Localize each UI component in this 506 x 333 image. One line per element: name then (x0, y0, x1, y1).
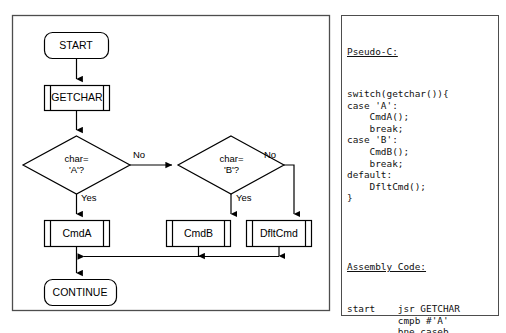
continue-terminal-shape (45, 280, 117, 306)
code-line: } (347, 192, 498, 204)
edge-label-no-b: No (264, 149, 276, 160)
code-line: DfltCmd(); (347, 181, 498, 193)
getchar-subroutine-shape (45, 86, 110, 111)
pseudo-c-heading: Pseudo-C: (347, 46, 498, 58)
code-line: case 'A': (347, 100, 498, 112)
code-line: default: (347, 169, 498, 181)
edge-no-b-to-dfltcmd (284, 165, 294, 214)
assembly-heading: Assembly Code: (347, 261, 498, 273)
code-line: start jsr GETCHAR (347, 303, 498, 315)
edge-label-yes-b: Yes (236, 192, 252, 203)
decision-b-line2: 'B'? (224, 164, 239, 175)
code-line: cmpb #'A' (347, 315, 498, 327)
code-line: break; (347, 123, 498, 135)
code-line: break; (347, 158, 498, 170)
code-panel: Pseudo-C: switch(getchar()){case 'A': Cm… (341, 15, 499, 316)
edge-label-yes-a: Yes (81, 192, 97, 203)
start-terminal-shape (45, 33, 109, 59)
cmda-subroutine-shape (45, 221, 110, 247)
code-line: CmdA(); (347, 111, 498, 123)
edge-label-no-a: No (133, 149, 145, 160)
decision-b-line1: char= (219, 153, 243, 164)
cmdb-subroutine-shape (167, 221, 231, 247)
decision-a-line1: char= (64, 153, 88, 164)
decision-a-line2: 'A'? (69, 164, 84, 175)
code-line: case 'B': (347, 134, 498, 146)
assembly-code: start jsr GETCHAR cmpb #'A' bne caseb js… (347, 303, 498, 333)
pseudo-c-code: switch(getchar()){case 'A': CmdA(); brea… (347, 88, 498, 204)
figure-canvas: START GETCHAR char= 'A'? char= 'B'? CmdA… (0, 0, 506, 333)
decision-b-label: char= 'B'? (201, 153, 262, 175)
code-line: CmdB(); (347, 146, 498, 158)
decision-a-label: char= 'A'? (46, 153, 107, 175)
code-line: switch(getchar()){ (347, 88, 498, 100)
dfltcmd-subroutine-shape (247, 221, 312, 247)
code-line: bne caseb (347, 326, 498, 333)
code-panel-spacer (347, 227, 498, 238)
